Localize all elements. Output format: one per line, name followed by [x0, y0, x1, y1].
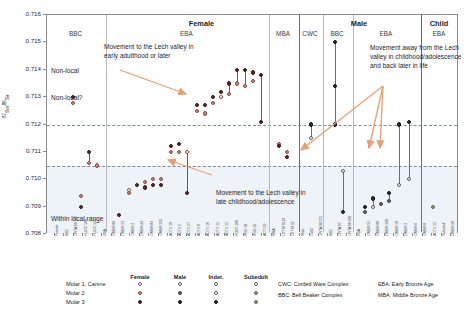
- data-point: [363, 205, 367, 209]
- x-tick-label: OMBR 2: [131, 223, 135, 236]
- data-point: [169, 150, 173, 154]
- data-point: [431, 205, 435, 209]
- x-tick-label: UNTA 68 342: [74, 216, 78, 236]
- data-point: [177, 150, 181, 154]
- zone-label-nonlocal: Non-local: [51, 67, 79, 74]
- data-point: [309, 136, 313, 140]
- x-tick-mark: [261, 233, 262, 236]
- sample-stem: [409, 122, 410, 179]
- x-tick-mark: [167, 233, 168, 236]
- x-tick-label: Female: [55, 225, 59, 236]
- abbreviation-entry: MBA: Middle Bronze Age: [378, 292, 438, 298]
- legend-marker: [214, 291, 218, 295]
- sample-stem: [261, 75, 262, 122]
- data-point: [211, 95, 215, 99]
- data-point: [333, 84, 337, 88]
- data-point: [219, 90, 223, 94]
- x-tick-label: MBA: [272, 229, 276, 237]
- data-point: [309, 122, 313, 126]
- group-header-sex: Female: [105, 19, 298, 28]
- x-tick-mark: [148, 233, 149, 236]
- x-tick-mark: [441, 233, 442, 236]
- abbreviation-entry: BBC: Bell Beaker Complex: [278, 292, 342, 298]
- data-point: [127, 191, 131, 195]
- data-point: [407, 120, 411, 124]
- x-tick-mark: [450, 233, 451, 236]
- data-point: [333, 122, 337, 126]
- legend-row-label: Molar 3: [66, 299, 85, 305]
- data-point: [185, 150, 189, 154]
- data-point: [227, 81, 231, 85]
- legend-marker: [178, 300, 182, 304]
- data-point: [397, 122, 401, 126]
- legend-marker: [178, 291, 182, 295]
- x-tick-label: OMBR 18: [395, 221, 399, 236]
- x-tick-mark: [337, 233, 338, 236]
- data-point: [203, 111, 207, 115]
- legend-row-label: Molar 2: [66, 290, 85, 296]
- x-tick-label: OMBR 55: [367, 221, 371, 236]
- x-tick-mark: [186, 233, 187, 236]
- x-tick-label: ACTV 15: [216, 222, 220, 236]
- legend-column-header: Subedult: [234, 274, 278, 280]
- data-point: [87, 161, 91, 165]
- x-tick-mark: [365, 233, 366, 236]
- data-point: [169, 144, 173, 148]
- data-point: [371, 196, 375, 200]
- x-tick-mark: [214, 233, 215, 236]
- legend-marker: [254, 291, 258, 295]
- y-tick-label: 0.708: [1, 230, 41, 236]
- x-tick-label: ACTV 27: [187, 222, 191, 236]
- x-tick-label: OTTM 32: [291, 222, 295, 236]
- x-tick-mark: [92, 233, 93, 236]
- x-tick-mark: [327, 233, 328, 236]
- x-tick-mark: [299, 233, 300, 236]
- data-point: [387, 191, 391, 195]
- x-tick-mark: [384, 233, 385, 236]
- abbreviation-entry: EBA: Early Bronze Age: [378, 281, 433, 287]
- x-tick-label: UNTA 88 380: [348, 216, 352, 236]
- legend-marker: [138, 291, 142, 295]
- data-point: [185, 191, 189, 195]
- x-tick-label: OMBR 2: [404, 223, 408, 236]
- x-tick-mark: [101, 233, 102, 236]
- data-point: [79, 194, 83, 198]
- x-tick-mark: [309, 233, 310, 236]
- x-tick-mark: [158, 233, 159, 236]
- y-tick-label: 0.711: [1, 148, 41, 154]
- data-point: [195, 103, 199, 107]
- x-tick-label: POST 186: [235, 220, 239, 236]
- group-header-period: BBC: [322, 30, 352, 37]
- data-point: [87, 150, 91, 154]
- x-tick-mark: [205, 233, 206, 236]
- data-point: [285, 150, 289, 154]
- x-tick-mark: [393, 233, 394, 236]
- legend-marker: [138, 282, 142, 286]
- x-tick-mark: [271, 233, 272, 236]
- legend-marker: [178, 282, 182, 286]
- x-tick-label: UNTA 88 221: [319, 216, 323, 236]
- x-tick-mark: [318, 233, 319, 236]
- y-tick-label: 0.714: [1, 66, 41, 72]
- x-tick-label: KNG 32: [253, 224, 257, 236]
- data-point: [371, 205, 375, 209]
- x-tick-label: OMBR 8: [423, 223, 427, 236]
- x-tick-label: OMBR 88: [376, 221, 380, 236]
- data-point: [71, 101, 75, 105]
- x-tick-label: OMBR 83: [150, 221, 154, 236]
- sample-stem: [187, 152, 188, 193]
- x-tick-mark: [224, 233, 225, 236]
- legend-row-label: Molar 1, Canine: [66, 281, 106, 287]
- data-point: [195, 109, 199, 113]
- x-tick-label: OMBR 80: [112, 221, 116, 236]
- data-point: [79, 205, 83, 209]
- x-tick-label: BBC: [65, 229, 69, 236]
- data-point: [235, 81, 239, 85]
- x-tick-label: OMBR 23: [121, 221, 125, 236]
- x-tick-mark: [252, 233, 253, 236]
- annotation-late-childhood: Movement to the Lech valley in late chil…: [216, 189, 314, 207]
- data-point: [177, 142, 181, 146]
- x-tick-mark: [422, 233, 423, 236]
- data-point: [135, 183, 139, 187]
- x-tick-label: OTTM 5532: [282, 218, 286, 236]
